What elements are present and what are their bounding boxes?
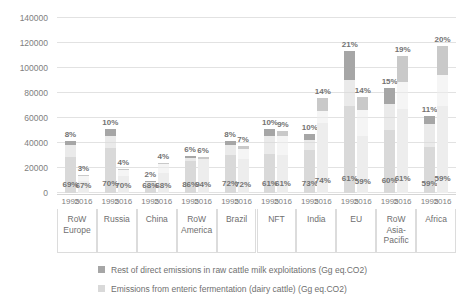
- legend-item-enteric-fermentation: Emissions from enteric fermentation (dai…: [98, 281, 438, 296]
- segment-rest-of-direct-emissions: [437, 46, 448, 76]
- bar-top-percent-label: 8%: [65, 130, 77, 139]
- segment-other: [384, 104, 395, 130]
- segment-rest-of-direct-emissions: [225, 141, 236, 145]
- category-label-line: America: [178, 225, 216, 236]
- y-axis-tick-label: 80000: [0, 89, 48, 98]
- legend-swatch-icon: [98, 285, 105, 292]
- bar-bottom-percent-label: 59%: [355, 177, 371, 186]
- bar-series-container: 8%69%3%67%10%70%4%70%2%68%4%68%6%86%6%94…: [57, 18, 456, 193]
- bar-top-percent-label: 10%: [302, 123, 318, 132]
- x-axis-year-label: 2016: [75, 197, 93, 207]
- segment-rest-of-direct-emissions: [158, 163, 169, 164]
- category-label-nft: NFT: [257, 209, 297, 253]
- bar-bottom-percent-label: 67%: [75, 181, 91, 190]
- category-label-line: Pacific: [377, 235, 415, 246]
- bar-top-percent-label: 10%: [102, 118, 118, 127]
- segment-rest-of-direct-emissions: [118, 169, 129, 170]
- segment-rest-of-direct-emissions: [384, 88, 395, 104]
- segment-rest-of-direct-emissions: [277, 131, 288, 137]
- category-label-line: Europe: [58, 225, 96, 236]
- segment-other: [225, 145, 236, 156]
- segment-rest-of-direct-emissions: [185, 156, 196, 158]
- category-label-row-america: RoWAmerica: [177, 209, 217, 253]
- segment-other: [357, 110, 368, 136]
- category-label-line: NFT: [258, 214, 296, 225]
- category-label-row-asia-pacific: RoWAsia-Pacific: [376, 209, 416, 253]
- bar-bottom-percent-label: 61%: [275, 179, 291, 188]
- x-axis-year-label: 2016: [394, 197, 412, 207]
- y-axis-tick-label: 60000: [0, 114, 48, 123]
- category-label-row-europe: RoWEurope: [57, 209, 97, 253]
- y-axis-tick-label: 100000: [0, 64, 48, 73]
- category-label-line: Asia-: [377, 225, 415, 236]
- category-label-russia: Russia: [97, 209, 137, 253]
- segment-rest-of-direct-emissions: [238, 146, 249, 149]
- bar-top-percent-label: 21%: [342, 40, 358, 49]
- bar-eu-1995[interactable]: [344, 51, 355, 194]
- bar-top-percent-label: 15%: [382, 77, 398, 86]
- x-axis-year-label: 2016: [314, 197, 332, 207]
- category-label-china: China: [137, 209, 177, 253]
- segment-other: [344, 80, 355, 106]
- segment-other: [397, 82, 408, 110]
- category-label-line: Russia: [98, 214, 136, 225]
- bar-top-percent-label: 7%: [237, 135, 249, 144]
- segment-other: [158, 164, 169, 172]
- x-axis-year-label: 2016: [234, 197, 252, 207]
- category-label-eu: EU: [336, 209, 376, 253]
- chart-legend: Rest of direct emissions in raw cattle m…: [98, 262, 438, 300]
- segment-other: [304, 140, 315, 150]
- y-axis-tick-label: 0: [0, 189, 48, 198]
- category-label-line: EU: [337, 214, 375, 225]
- bar-top-percent-label: 19%: [395, 45, 411, 54]
- category-label-line: RoW: [377, 214, 415, 225]
- y-axis-tick-label: 120000: [0, 39, 48, 48]
- bar-bottom-percent-label: 70%: [115, 181, 131, 190]
- category-label-line: China: [138, 214, 176, 225]
- segment-other: [264, 136, 275, 154]
- segment-other: [277, 136, 288, 155]
- segment-other: [65, 145, 76, 157]
- segment-other: [424, 124, 435, 147]
- category-label-line: RoW: [58, 214, 96, 225]
- legend-item-label: Rest of direct emissions in raw cattle m…: [111, 265, 367, 275]
- bar-africa-2016[interactable]: [437, 46, 448, 194]
- x-axis-year-label: 2016: [354, 197, 372, 207]
- segment-rest-of-direct-emissions: [264, 129, 275, 135]
- y-axis-tick-label: 140000: [0, 14, 48, 23]
- segment-rest-of-direct-emissions: [424, 116, 435, 125]
- bar-top-percent-label: 6%: [184, 145, 196, 154]
- category-label-line: India: [297, 214, 335, 225]
- x-axis-year-label: 2016: [114, 197, 132, 207]
- bar-bottom-percent-label: 59%: [435, 174, 451, 183]
- segment-other: [437, 75, 448, 106]
- segment-rest-of-direct-emissions: [357, 97, 368, 110]
- bar-top-percent-label: 3%: [78, 164, 90, 173]
- y-axis-tick-label: 40000: [0, 139, 48, 148]
- category-label-line: RoW: [178, 214, 216, 225]
- bar-bottom-percent-label: 74%: [315, 176, 331, 185]
- x-axis-year-label: 2016: [434, 197, 452, 207]
- bar-bottom-percent-label: 72%: [235, 180, 251, 189]
- y-axis-tick-label: 20000: [0, 164, 48, 173]
- legend-item-label: Emissions from enteric fermentation (dai…: [111, 284, 347, 294]
- segment-other: [118, 170, 129, 176]
- bar-top-percent-label: 8%: [224, 130, 236, 139]
- bar-row-asia-pacific-2016[interactable]: [397, 56, 408, 194]
- segment-rest-of-direct-emissions: [304, 134, 315, 140]
- emissions-stacked-bar-chart: 020000400006000080000100000120000140000 …: [0, 0, 463, 303]
- bar-top-percent-label: 4%: [118, 158, 130, 167]
- segment-rest-of-direct-emissions: [65, 141, 76, 145]
- x-axis-category-labels: RoWEuropeRussiaChinaRoWAmericaBrazilNFTI…: [57, 209, 456, 253]
- legend-item-rest-of-direct-emissions: Rest of direct emissions in raw cattle m…: [98, 262, 438, 277]
- category-label-africa: Africa: [416, 209, 456, 253]
- segment-rest-of-direct-emissions: [397, 56, 408, 82]
- plot-area: 020000400006000080000100000120000140000 …: [57, 18, 456, 193]
- bar-top-percent-label: 10%: [262, 118, 278, 127]
- segment-other: [238, 149, 249, 159]
- segment-rest-of-direct-emissions: [344, 51, 355, 81]
- category-label-line: Africa: [417, 214, 455, 225]
- bar-top-percent-label: 11%: [422, 105, 438, 114]
- category-label-brazil: Brazil: [217, 209, 257, 253]
- bar-bottom-percent-label: 94%: [195, 180, 211, 189]
